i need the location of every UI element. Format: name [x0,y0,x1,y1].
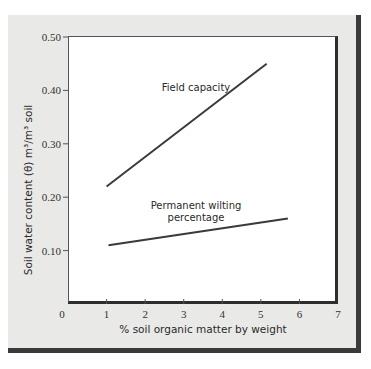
y-tick-label: 0.20 [42,191,62,203]
x-tick-label: 0 [59,308,65,320]
x-tick-label: 2 [142,308,148,320]
y-axis-ticks: 0.100.200.300.400.50 [42,31,68,257]
x-axis-ticks: 01234567 [59,299,341,320]
x-tick-label: 4 [220,308,226,320]
x-tick-label: 6 [297,308,303,320]
series-label: Permanent wilting [151,200,242,211]
y-tick-label: 0.50 [42,31,62,43]
y-tick-label: 0.30 [42,138,62,150]
y-tick-label: 0.10 [42,245,62,257]
x-axis-label: % soil organic matter by weight [119,323,286,335]
data-series: Field capacityPermanent wiltingpercentag… [107,64,288,246]
chart-svg: 0.100.200.300.400.50 01234567 Field capa… [0,0,371,369]
y-tick-label: 0.40 [42,84,62,96]
y-axis-label: Soil water content (θ) m³/m³ soil [22,105,34,276]
x-tick-label: 7 [335,308,341,320]
x-tick-label: 5 [258,308,264,320]
x-tick-label: 1 [104,308,110,320]
x-tick-label: 3 [181,308,187,320]
series-label: Field capacity [162,82,231,93]
series-label: percentage [168,212,225,223]
